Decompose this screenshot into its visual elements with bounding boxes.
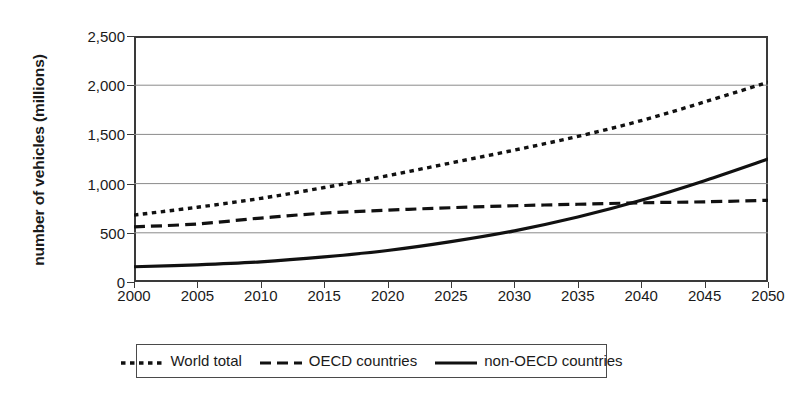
x-tick-label: 2040 xyxy=(611,288,671,304)
legend-swatch-dashed-icon xyxy=(259,355,303,367)
series-line-0 xyxy=(134,82,768,215)
x-tick-label: 2005 xyxy=(167,288,227,304)
y-tick-mark xyxy=(127,184,134,185)
x-tick-label: 2030 xyxy=(484,288,544,304)
y-tick-mark xyxy=(127,134,134,135)
x-tick-label: 2035 xyxy=(548,288,608,304)
y-tick-label: 1,500 xyxy=(45,127,125,142)
gridlines xyxy=(134,85,768,233)
legend-label: World total xyxy=(170,353,241,369)
x-tick-label: 2045 xyxy=(675,288,735,304)
vehicle-projection-chart: number of vehicles (millions) 2,5002,000… xyxy=(0,0,803,406)
legend-item: World total xyxy=(120,353,241,369)
y-tick-mark xyxy=(127,85,134,86)
x-tick-label: 2015 xyxy=(294,288,354,304)
y-axis-title: number of vehicles (millions) xyxy=(27,15,51,305)
y-tick-label: 1,000 xyxy=(45,177,125,192)
y-tick-label: 2,500 xyxy=(45,29,125,44)
series-line-1 xyxy=(134,200,768,227)
plot-lines xyxy=(134,36,768,282)
legend-swatch-solid-icon xyxy=(434,355,478,367)
series-line-2 xyxy=(134,159,768,267)
y-tick-label: 500 xyxy=(45,226,125,241)
legend-swatch-dotted-icon xyxy=(120,355,164,367)
legend-label: OECD countries xyxy=(309,353,417,369)
x-tick-label: 2025 xyxy=(421,288,481,304)
legend-label: non-OECD countries xyxy=(484,353,622,369)
series-lines xyxy=(134,82,768,267)
legend-item: non-OECD countries xyxy=(434,353,622,369)
x-tick-label: 2000 xyxy=(104,288,164,304)
y-tick-mark xyxy=(127,36,134,37)
x-tick-label: 2050 xyxy=(738,288,798,304)
x-tick-label: 2020 xyxy=(358,288,418,304)
x-tick-label: 2010 xyxy=(231,288,291,304)
y-tick-label: 2,000 xyxy=(45,78,125,93)
legend-item: OECD countries xyxy=(259,353,417,369)
y-tick-mark xyxy=(127,282,134,283)
y-tick-mark xyxy=(127,233,134,234)
chart-legend: World totalOECD countriesnon-OECD countr… xyxy=(136,344,607,378)
